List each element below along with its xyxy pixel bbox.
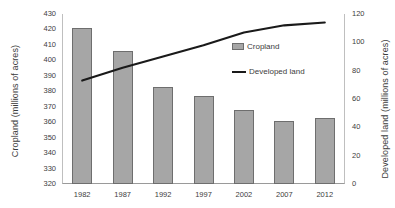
left-tick-420: 420 xyxy=(20,24,56,33)
legend-item-cropland: Cropland xyxy=(232,42,342,51)
left-tick-390: 390 xyxy=(20,71,56,80)
x-tick-1987: 1987 xyxy=(105,190,141,199)
right-tick-80: 80 xyxy=(352,66,376,75)
left-tick-330: 330 xyxy=(20,164,56,173)
legend-item-developed-land: Developed land xyxy=(232,67,342,76)
x-tick-2002: 2002 xyxy=(226,190,262,199)
right-tick-60: 60 xyxy=(352,94,376,103)
left-tick-430: 430 xyxy=(20,9,56,18)
left-tick-350: 350 xyxy=(20,133,56,142)
left-axis-title: Cropland (millions of acres) xyxy=(10,16,20,186)
left-tick-340: 340 xyxy=(20,148,56,157)
left-tick-400: 400 xyxy=(20,55,56,64)
x-tick-1992: 1992 xyxy=(145,190,181,199)
right-axis-title: Developed land (millions of acres) xyxy=(380,12,390,206)
legend-label-cropland: Cropland xyxy=(247,42,279,51)
line-swatch-icon xyxy=(232,71,246,73)
right-tick-120: 120 xyxy=(352,9,376,18)
legend-label-developed-land: Developed land xyxy=(249,67,305,76)
right-tick-100: 100 xyxy=(352,37,376,46)
x-tick-1997: 1997 xyxy=(186,190,222,199)
x-tick-2007: 2007 xyxy=(266,190,302,199)
x-tick-2012: 2012 xyxy=(307,190,343,199)
left-tick-360: 360 xyxy=(20,117,56,126)
line-series-developed-land xyxy=(62,14,345,184)
x-tick-1982: 1982 xyxy=(64,190,100,199)
right-tick-0: 0 xyxy=(352,179,376,188)
right-tick-20: 20 xyxy=(352,151,376,160)
left-tick-320: 320 xyxy=(20,179,56,188)
chart-legend: Cropland Developed land xyxy=(232,42,342,92)
right-tick-40: 40 xyxy=(352,122,376,131)
bar-swatch-icon xyxy=(232,43,244,50)
left-tick-380: 380 xyxy=(20,86,56,95)
left-tick-370: 370 xyxy=(20,102,56,111)
left-tick-410: 410 xyxy=(20,40,56,49)
chart-container: Cropland (millions of acres) Developed l… xyxy=(0,0,395,208)
plot-area xyxy=(62,14,345,184)
